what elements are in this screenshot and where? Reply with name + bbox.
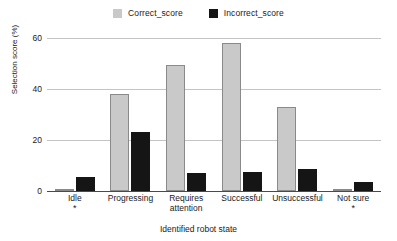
x-tick-label: Progressing xyxy=(103,194,159,204)
plot-area xyxy=(47,33,381,191)
x-axis-tick-labels: Idle*ProgressingRequiresattentionSuccess… xyxy=(47,194,381,224)
bar-incorrect-score xyxy=(243,172,262,191)
legend-label-correct-score: Correct_score xyxy=(128,9,183,18)
bar-incorrect-score xyxy=(187,173,206,191)
bar-chart-figure: Correct_score Incorrect_score 0204060 Se… xyxy=(0,0,397,241)
bar-group xyxy=(325,33,381,191)
x-tick-label: Idle* xyxy=(47,194,103,213)
chart-legend: Correct_score Incorrect_score xyxy=(0,9,397,18)
bar-group xyxy=(270,33,326,191)
bar-group xyxy=(47,33,103,191)
x-axis-line xyxy=(47,191,381,192)
x-tick-label: Not sure* xyxy=(325,194,381,213)
y-tick-label-60: 60 xyxy=(2,34,42,43)
y-axis-tick-labels: 0204060 xyxy=(0,33,42,191)
x-axis-title: Identified robot state xyxy=(0,224,397,234)
y-tick-label-20: 20 xyxy=(2,136,42,145)
bar-series-container xyxy=(47,33,381,191)
legend-swatch-incorrect-score xyxy=(209,9,218,18)
bar-correct-score xyxy=(110,94,129,191)
y-axis-title: Selection score (%) xyxy=(10,0,19,120)
x-tick-footnote-asterisk: * xyxy=(325,204,381,213)
bar-group xyxy=(214,33,270,191)
legend-label-incorrect-score: Incorrect_score xyxy=(224,9,284,18)
x-tick-label: Unsuccessful xyxy=(270,194,326,204)
x-tick-label: Successful xyxy=(214,194,270,204)
bar-correct-score xyxy=(222,43,241,191)
y-tick-label-40: 40 xyxy=(2,85,42,94)
bar-incorrect-score xyxy=(76,177,95,191)
x-tick-footnote-asterisk: * xyxy=(47,204,103,213)
bar-correct-score xyxy=(277,107,296,191)
bar-incorrect-score xyxy=(354,182,373,191)
legend-entry-correct-score: Correct_score xyxy=(113,9,183,18)
bar-correct-score xyxy=(166,65,185,191)
legend-swatch-correct-score xyxy=(113,9,122,18)
y-tick-label-0: 0 xyxy=(2,187,42,196)
bar-group xyxy=(158,33,214,191)
x-tick-label: Requiresattention xyxy=(158,194,214,213)
bar-incorrect-score xyxy=(131,132,150,191)
bar-incorrect-score xyxy=(298,169,317,191)
legend-entry-incorrect-score: Incorrect_score xyxy=(209,9,284,18)
bar-group xyxy=(103,33,159,191)
